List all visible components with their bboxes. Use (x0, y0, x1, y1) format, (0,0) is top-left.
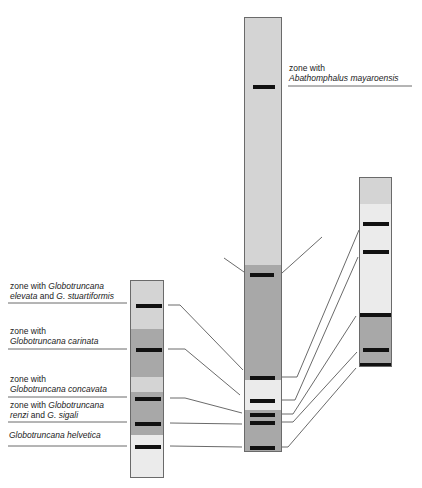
marker (136, 304, 162, 308)
label-carinata: zone with Globotruncana carinata (10, 326, 98, 346)
left-column (130, 280, 164, 478)
marker (250, 421, 275, 425)
marker (363, 222, 389, 226)
marker (136, 348, 162, 352)
marker (250, 413, 275, 417)
marker (250, 376, 275, 380)
label-helvetica: Globotruncana helvetica (9, 430, 101, 440)
marker (250, 273, 274, 277)
label-renzi: zone with Globotruncana renzi and G. sig… (10, 400, 104, 420)
marker (360, 313, 391, 317)
marker (363, 250, 389, 254)
middle-column (244, 17, 282, 452)
marker (253, 85, 275, 89)
label-abathomphalus: zone with Abathomphalus mayaroensis (289, 63, 399, 83)
marker (135, 445, 161, 449)
marker (250, 399, 275, 403)
marker (250, 446, 275, 450)
marker (135, 397, 161, 401)
marker (363, 348, 389, 352)
label-concavata: zone with Globotruncana concavata (10, 374, 107, 394)
marker (135, 422, 161, 426)
label-elevata: zone with Globotruncana elevata and G. s… (10, 281, 114, 301)
marker (360, 363, 391, 367)
right-column (359, 177, 392, 367)
